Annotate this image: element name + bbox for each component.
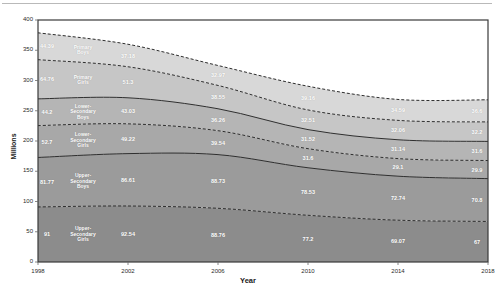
data-value-label: 67 [474,239,480,245]
y-axis-tick-label: 100 [11,198,33,204]
data-value-label: 51.3 [123,79,134,85]
data-value-label: 92.54 [121,231,135,237]
x-axis-title: Year [0,276,496,285]
data-value-label: 49.22 [121,136,135,142]
y-axis-tick-label: 350 [11,46,33,52]
x-axis-tick-label: 2002 [108,268,148,274]
series-name-label: Primary Boys [74,45,93,56]
data-value-label: 39.54 [211,140,225,146]
data-value-label: 38.55 [211,94,225,100]
data-value-label: 70.8 [472,197,483,203]
data-value-label: 78.53 [301,189,315,195]
data-value-label: 86.61 [121,177,135,183]
series-name-label: Primary Girls [74,75,93,86]
data-value-label: 52.7 [42,139,53,145]
y-axis-tick-label: 400 [11,16,33,22]
y-axis-tick-label: 0 [11,258,33,264]
x-axis-tick-label: 2010 [288,268,328,274]
y-axis-tick-label: 250 [11,107,33,113]
series-name-label: Upper- Secondary Girls [70,226,96,243]
data-value-label: 44.2 [42,109,53,115]
series-name-label: Lower- Secondary Girls [70,132,96,149]
data-value-label: 36.26 [211,117,225,123]
data-value-label: 91 [44,231,50,237]
data-value-label: 43.03 [121,108,135,114]
x-axis-tick-label: 2014 [378,268,418,274]
series-name-label: Upper- Secondary Boys [70,173,96,190]
data-value-label: 88.73 [211,178,225,184]
data-value-label: 31.14 [391,146,405,152]
data-value-label: 29.1 [393,164,404,170]
chart-figure: Millions Year 050100150200250300350400 1… [0,0,496,296]
data-value-label: 32.2 [472,129,483,135]
y-axis-tick-label: 50 [11,228,33,234]
data-value-label: 72.74 [391,195,405,201]
data-value-label: 88.76 [211,232,225,238]
data-value-label: 31.6 [472,148,483,154]
x-axis-tick-label: 2006 [198,268,238,274]
data-value-label: 69.07 [391,238,405,244]
data-value-label: 31.52 [301,136,315,142]
x-axis-tick-label: 2018 [468,268,496,274]
data-value-label: 81.77 [40,179,54,185]
data-value-label: 77.2 [303,236,314,242]
data-value-label: 32.06 [391,127,405,133]
data-value-label: 37.18 [121,53,135,59]
y-axis-tick-label: 150 [11,167,33,173]
series-name-label: Lower- Secondary Boys [70,103,96,120]
data-value-label: 31.6 [303,155,314,161]
data-value-label: 29.9 [472,167,483,173]
data-value-label: 34.59 [391,107,405,113]
y-axis-tick-label: 200 [11,137,33,143]
data-value-label: 32.51 [301,117,315,123]
data-value-label: 36.6 [472,108,483,114]
x-axis-tick-label: 1998 [18,268,58,274]
data-value-label: 64.76 [40,76,54,82]
y-axis-tick-label: 300 [11,77,33,83]
data-value-label: 39.16 [301,95,315,101]
data-value-label: 32.97 [211,72,225,78]
data-value-label: 44.39 [40,43,54,49]
